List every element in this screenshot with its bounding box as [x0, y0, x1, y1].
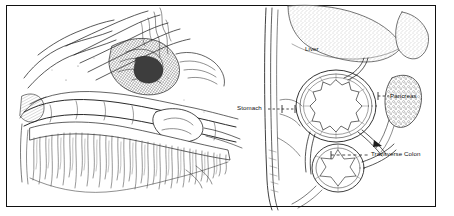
panel-surgical-dissection [8, 0, 254, 216]
label-stomach: Stomach [237, 105, 262, 111]
cross-section-drawing [265, 5, 429, 210]
label-pancreas: Pancreas [390, 93, 417, 99]
label-liver: Liver [305, 46, 319, 52]
panel-sagittal-diagram [252, 0, 436, 216]
dissection-drawing [20, 8, 242, 192]
figure-plate: Liver Stomach Pancreas Transverse Colon [0, 0, 454, 216]
label-transverse-colon: Transverse Colon [371, 151, 420, 157]
